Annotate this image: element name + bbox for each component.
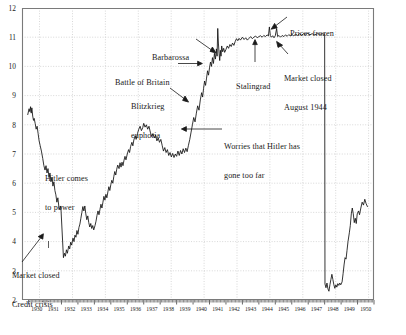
y-axis-tick-label: 10: [2, 62, 16, 71]
annotation-worries-hitler-gone-too-far: Worries that Hitler has gone too far: [224, 123, 300, 200]
y-axis-tick-label: 8: [2, 121, 16, 130]
annotation-line: Hitler comes: [45, 174, 88, 184]
annotation-line: August 1944: [284, 103, 332, 113]
annotation-line: to power: [45, 203, 88, 213]
y-axis-tick-label: 6: [2, 179, 16, 188]
annotation-hitler-comes-to-power: Hitler comes to power: [45, 155, 88, 232]
chart-figure: 12111098765432 1930193119321933193419351…: [0, 0, 406, 335]
annotation-market-closed-credit-crisis: Market closed Credit crisis: [12, 252, 60, 329]
annotation-line: Barbarossa: [152, 53, 189, 63]
y-axis-tick-label: 11: [2, 33, 16, 42]
annotation-prices-frozen: Prices frozen: [290, 10, 334, 58]
y-axis-tick-label: 4: [2, 237, 16, 246]
annotation-market-closed-august-1944: Market closed August 1944: [284, 55, 332, 132]
annotation-line: Worries that Hitler has: [224, 142, 300, 152]
annotation-line: gone too far: [224, 171, 300, 181]
x-axis-tick-label: 1950: [355, 306, 377, 312]
y-axis-tick-label: 9: [2, 91, 16, 100]
chart-x-tickmarks: [29, 300, 374, 305]
y-axis-tick-label: 12: [2, 4, 16, 13]
annotation-line: Market closed: [12, 271, 60, 281]
annotation-line: Market closed: [284, 74, 332, 84]
annotation-barbarossa: Barbarossa: [152, 34, 189, 82]
annotation-line: euphoria: [131, 131, 165, 141]
annotation-line: Stalingrad: [236, 82, 270, 92]
y-axis-tick-label: 5: [2, 208, 16, 217]
annotation-line: Prices frozen: [290, 29, 334, 39]
y-axis-tick-label: 7: [2, 150, 16, 159]
annotation-stalingrad: Stalingrad: [236, 63, 270, 111]
annotation-line: Credit crisis: [12, 300, 60, 310]
